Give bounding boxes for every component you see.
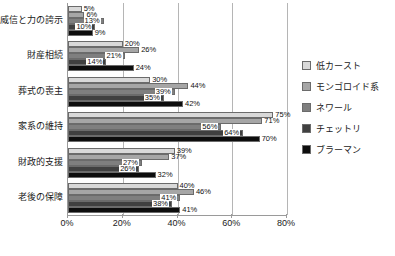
legend-item[interactable]: ネワール	[302, 102, 394, 113]
bar-row: 9%	[68, 30, 286, 36]
legend-label: チェットリ	[316, 124, 361, 134]
category-label: 財産相続	[0, 50, 63, 60]
category-label: 葬式の喪主	[0, 86, 63, 96]
legend-swatch-icon	[302, 145, 311, 154]
legend-swatch-icon	[302, 61, 311, 70]
bar	[68, 30, 93, 36]
bar	[68, 65, 134, 71]
x-tick-label: 40%	[167, 218, 185, 228]
bar-row: 70%	[68, 136, 286, 142]
bar-value-label: 41%	[182, 206, 197, 214]
legend-label: ブラーマン	[316, 145, 361, 155]
category-axis-labels: 威信と力の誇示財産相続葬式の喪主家系の維持財政的支援老後の保障	[0, 2, 66, 216]
bar-chart: 威信と力の誇示財産相続葬式の喪主家系の維持財政的支援老後の保障 5%6%13%1…	[0, 0, 395, 256]
legend: 低カーストモンゴロイド系ネワールチェットリブラーマン	[302, 60, 394, 165]
x-axis: 0%20%40%60%80%	[67, 218, 286, 232]
legend-swatch-icon	[302, 103, 311, 112]
bar	[68, 136, 260, 142]
legend-item[interactable]: ブラーマン	[302, 144, 394, 155]
bar-row: 41%	[68, 207, 286, 213]
legend-item[interactable]: チェットリ	[302, 123, 394, 134]
bar-value-label: 70%	[262, 135, 277, 143]
x-tick-label: 20%	[113, 218, 131, 228]
x-tick-label: 0%	[60, 218, 73, 228]
legend-label: 低カースト	[316, 61, 361, 71]
bar	[68, 101, 183, 107]
gridline	[287, 3, 288, 215]
bar-value-label: 32%	[158, 171, 173, 179]
bar-row: 42%	[68, 101, 286, 107]
bar-row: 24%	[68, 65, 286, 71]
bar-row: 32%	[68, 172, 286, 178]
bar	[68, 172, 156, 178]
category-label: 家系の維持	[0, 121, 63, 131]
bar-value-label: 24%	[136, 64, 151, 72]
category-label: 威信と力の誇示	[0, 15, 63, 25]
legend-swatch-icon	[302, 82, 311, 91]
plot-area: 5%6%13%10%9%20%26%21%14%24%30%44%39%35%4…	[67, 3, 286, 216]
legend-label: ネワール	[316, 103, 352, 113]
bar	[68, 207, 180, 213]
category-label: 老後の保障	[0, 192, 63, 202]
legend-item[interactable]: モンゴロイド系	[302, 81, 394, 92]
x-tick-label: 60%	[222, 218, 240, 228]
legend-swatch-icon	[302, 124, 311, 133]
x-tick-label: 80%	[277, 218, 295, 228]
category-label: 財政的支援	[0, 157, 63, 167]
legend-item[interactable]: 低カースト	[302, 60, 394, 71]
bar-value-label: 9%	[95, 29, 106, 37]
bar-value-label: 42%	[185, 100, 200, 108]
legend-label: モンゴロイド系	[316, 82, 379, 92]
